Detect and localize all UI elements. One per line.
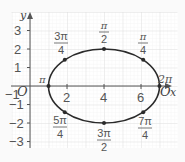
svg-text:4: 4 bbox=[140, 44, 146, 56]
svg-text:3π: 3π bbox=[54, 30, 68, 42]
svg-text:7π: 7π bbox=[138, 115, 152, 127]
y-axis-label: y bbox=[19, 9, 27, 22]
svg-text:5π: 5π bbox=[53, 114, 67, 126]
y-tick-1: 1 bbox=[14, 60, 21, 75]
y-tick-2: 2 bbox=[14, 42, 21, 57]
svg-text:2: 2 bbox=[101, 141, 107, 153]
svg-text:4: 4 bbox=[58, 44, 64, 56]
svg-text:3π: 3π bbox=[97, 127, 111, 139]
point-3pi-2 bbox=[102, 121, 106, 125]
y-tick-3: 3 bbox=[14, 23, 21, 38]
x-tick-2: 2 bbox=[63, 90, 70, 105]
point-pi-2 bbox=[102, 47, 106, 51]
svg-text:2: 2 bbox=[101, 33, 107, 45]
svg-text:π: π bbox=[139, 31, 147, 42]
origin-label: O bbox=[17, 84, 28, 99]
point-pi-4 bbox=[141, 58, 145, 62]
svg-text:4: 4 bbox=[142, 129, 148, 141]
y-tick-neg2: −2 bbox=[9, 116, 24, 131]
point-7pi-4 bbox=[141, 110, 145, 114]
x-tick-6: 6 bbox=[137, 90, 144, 105]
y-tick-neg3: −3 bbox=[9, 134, 24, 149]
label-3pi-over-2: 3π 2 bbox=[97, 127, 111, 153]
point-3pi-4 bbox=[63, 58, 67, 62]
x-tick-4: 4 bbox=[100, 90, 107, 105]
label-right-origin: O bbox=[160, 84, 171, 99]
svg-text:π: π bbox=[100, 20, 108, 31]
grid-major bbox=[12, 12, 178, 148]
x-axis-label: x bbox=[170, 86, 177, 99]
svg-text:4: 4 bbox=[57, 128, 63, 140]
label-pi: π bbox=[38, 74, 46, 85]
point-pi bbox=[47, 84, 51, 88]
ellipse-diagram: y x 3 2 1 −1 −2 −3 −1 O 2 4 6 π 2π O π 2… bbox=[0, 0, 185, 162]
